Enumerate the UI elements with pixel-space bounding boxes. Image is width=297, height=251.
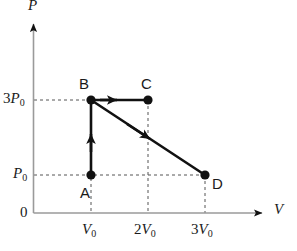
y-tick-3p0-subscript: 0 xyxy=(20,97,25,108)
process-direction-arrows xyxy=(91,100,150,152)
x-tick-2v0-subscript: 0 xyxy=(151,228,156,239)
y-tick-label-3p0: 3P0 xyxy=(3,91,25,108)
x-axis-label: V xyxy=(274,202,283,217)
x-tick-v0-symbol: V xyxy=(82,221,91,237)
point-d xyxy=(200,170,209,179)
x-tick-label-2v0: 2V0 xyxy=(134,222,156,239)
y-tick-p0-symbol: P xyxy=(13,165,22,181)
y-tick-p0-subscript: 0 xyxy=(22,172,27,183)
x-tick-2v0-coefficient: 2 xyxy=(134,221,142,237)
arrow-b-to-d xyxy=(127,124,150,139)
origin-label: 0 xyxy=(20,205,28,220)
pv-diagram-figure: P V 0 3P0 P0 V0 2V0 3V0 B C A D xyxy=(0,0,297,251)
y-tick-3p0-coefficient: 3 xyxy=(3,90,11,106)
x-tick-label-v0: V0 xyxy=(82,222,96,239)
point-label-c: C xyxy=(141,76,152,91)
x-tick-3v0-coefficient: 3 xyxy=(191,221,199,237)
point-b xyxy=(86,95,95,104)
y-axis-label: P xyxy=(28,0,37,13)
point-label-a: A xyxy=(80,185,90,200)
y-tick-3p0-symbol: P xyxy=(11,90,20,106)
x-tick-3v0-subscript: 0 xyxy=(208,228,213,239)
pv-diagram-canvas xyxy=(0,0,297,251)
guide-lines xyxy=(34,100,205,213)
point-label-d: D xyxy=(212,176,223,191)
point-a xyxy=(86,170,95,179)
point-c xyxy=(143,95,152,104)
point-label-b: B xyxy=(79,76,89,91)
x-tick-3v0-symbol: V xyxy=(199,221,208,237)
y-tick-label-p0: P0 xyxy=(13,166,27,183)
x-tick-label-3v0: 3V0 xyxy=(191,222,213,239)
x-tick-2v0-symbol: V xyxy=(142,221,151,237)
x-tick-v0-subscript: 0 xyxy=(91,228,96,239)
